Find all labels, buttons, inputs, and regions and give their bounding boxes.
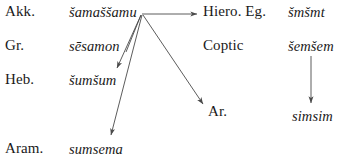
word-form-arabic: simsim [292,109,333,124]
arrow-akk-to-gr [126,15,141,52]
word-form-greek: sēsamon [69,39,120,54]
language-label-coptic: Coptic [203,38,244,53]
language-label-hebrew: Heb. [5,72,34,87]
language-label-hieroglyphic-egyptian: Hiero. Eg. [203,4,266,19]
arrow-layer [0,0,355,164]
arrow-akk-to-ar [143,15,203,104]
etymology-diagram: Akk. Gr. Heb. Aram. šamaššamu sēsamon šu… [0,0,355,164]
language-label-arabic: Ar. [208,104,227,119]
word-form-aramaic: sumsema [69,142,123,157]
word-form-hieroglyphic-egyptian: šmšmt [288,5,325,20]
language-label-aramaic: Aram. [5,141,43,156]
word-form-akkadian: šamaššamu [69,5,137,20]
word-form-hebrew: šumšum [69,73,116,88]
arrow-akk-to-heb [117,15,141,68]
language-label-akkadian: Akk. [5,4,35,19]
word-form-coptic: šemšem [288,39,334,54]
language-label-greek: Gr. [5,38,24,53]
